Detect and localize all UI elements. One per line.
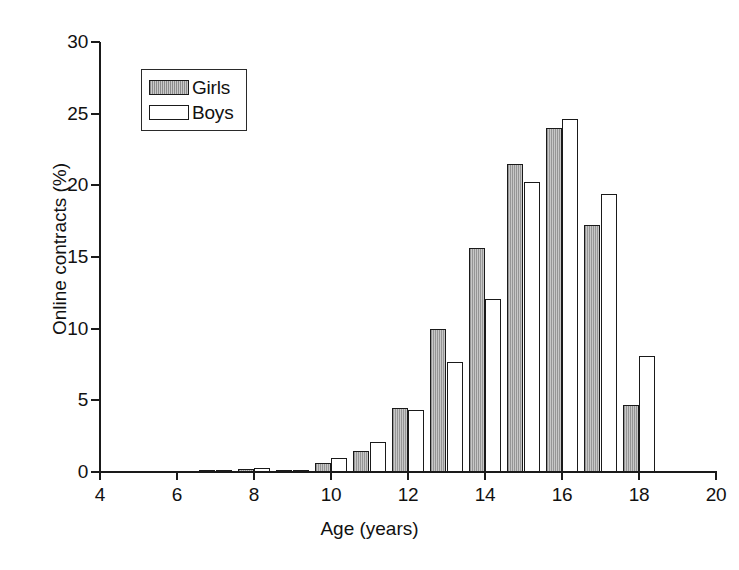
y-tick-label: 0: [42, 462, 88, 481]
bar-boys-age-7: [216, 470, 232, 472]
x-tick-label: 10: [301, 484, 361, 506]
legend-label-boys: Boys: [192, 103, 233, 122]
bar-girls-age-16: [546, 128, 562, 472]
bar-boys-age-8: [254, 468, 270, 472]
bar-girls-age-10: [315, 463, 331, 472]
bar-boys-age-9: [293, 470, 309, 472]
x-tick-label: 20: [686, 484, 739, 506]
bar-boys-age-13: [447, 362, 463, 472]
bar-boys-age-16: [562, 119, 578, 472]
x-tick-label: 4: [70, 484, 130, 506]
y-tick-mark: [91, 399, 100, 401]
x-tick-mark: [561, 471, 563, 480]
bar-girls-age-11: [353, 451, 369, 473]
x-tick-label: 6: [147, 484, 207, 506]
y-tick-mark: [91, 328, 100, 330]
y-tick-label-wrap: 25: [0, 104, 88, 123]
x-tick-mark: [99, 471, 101, 480]
x-tick-label: 18: [609, 484, 669, 506]
y-tick-label-wrap: 5: [0, 390, 88, 409]
x-tick-mark: [715, 471, 717, 480]
legend: Girls Boys: [141, 69, 247, 131]
y-tick-mark: [91, 41, 100, 43]
bar-girls-age-9: [276, 470, 292, 472]
bar-girls-age-18: [623, 405, 639, 472]
x-tick-mark: [253, 471, 255, 480]
y-tick-label-wrap: 15: [0, 247, 88, 266]
bar-girls-age-8: [238, 469, 254, 472]
legend-swatch-boys: [149, 105, 189, 120]
y-tick-label-wrap: 30: [0, 32, 88, 51]
bar-boys-age-18: [639, 356, 655, 472]
x-axis-title: Age (years): [0, 518, 739, 540]
bar-girls-age-7: [199, 470, 215, 472]
chart-container: 051015202530 468101214161820 Girls Boys …: [0, 0, 739, 570]
x-tick-label: 12: [378, 484, 438, 506]
bar-girls-age-13: [430, 329, 446, 472]
x-tick-mark: [176, 471, 178, 480]
y-tick-mark: [91, 184, 100, 186]
bar-boys-age-17: [601, 194, 617, 472]
x-tick-label: 16: [532, 484, 592, 506]
y-tick-mark: [91, 113, 100, 115]
y-tick-label-wrap: 20: [0, 175, 88, 194]
legend-item-boys: Boys: [149, 101, 233, 123]
bar-boys-age-12: [408, 410, 424, 472]
y-tick-mark: [91, 256, 100, 258]
bar-girls-age-15: [507, 164, 523, 472]
y-axis-title: Online contracts (%): [49, 84, 71, 414]
legend-label-girls: Girls: [192, 78, 230, 97]
bar-girls-age-12: [392, 408, 408, 473]
x-tick-label: 8: [224, 484, 284, 506]
x-tick-mark: [484, 471, 486, 480]
x-tick-mark: [638, 471, 640, 480]
bar-girls-age-14: [469, 248, 485, 472]
y-tick-label: 30: [42, 32, 88, 51]
bar-boys-age-14: [485, 299, 501, 472]
y-tick-label-wrap: 10: [0, 319, 88, 338]
legend-item-girls: Girls: [149, 76, 230, 98]
y-tick-label-wrap: 0: [0, 462, 88, 481]
bar-boys-age-11: [370, 442, 386, 472]
x-tick-mark: [330, 471, 332, 480]
bar-boys-age-15: [524, 182, 540, 472]
x-tick-label: 14: [455, 484, 515, 506]
x-tick-mark: [407, 471, 409, 480]
bar-boys-age-10: [331, 458, 347, 472]
bar-girls-age-17: [584, 225, 600, 472]
legend-swatch-girls: [149, 80, 189, 95]
